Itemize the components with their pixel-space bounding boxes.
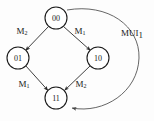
edge-00-to-01 [26,27,49,51]
edge-label-top-right-sub: 1 [83,30,86,36]
edge-label-outer-arc: MUI1 [121,28,143,40]
node-01-label: 01 [14,54,22,63]
edge-label-outer-arc-sub: 1 [139,30,144,40]
edge-label-bottom-right: M2 [75,79,86,89]
edge-label-top-left-base: M [16,26,24,36]
edge-label-outer-arc-base: MUI [121,28,139,38]
edge-label-top-right: M1 [74,26,85,36]
state-transition-diagram: 00 01 10 11 M2 M1 M1 M2 MUI1 [0,0,154,121]
edge-label-top-left-sub: 2 [25,30,28,36]
node-00-label: 00 [52,14,60,23]
node-11[interactable]: 11 [45,87,67,109]
edge-label-bottom-left-sub: 1 [27,83,30,89]
edge-label-bottom-right-sub: 2 [84,83,87,89]
node-11-label: 11 [52,94,60,103]
node-10[interactable]: 10 [87,47,109,69]
node-01[interactable]: 01 [7,47,29,69]
edge-label-bottom-right-base: M [75,79,83,89]
edge-label-top-right-base: M [74,26,82,36]
edge-label-bottom-left-base: M [18,79,26,89]
edge-label-bottom-left: M1 [18,79,29,89]
diagram-canvas: 00 01 10 11 M2 M1 M1 M2 MUI1 [0,0,154,121]
edge-label-top-left: M2 [16,26,27,36]
node-10-label: 10 [94,54,102,63]
node-00[interactable]: 00 [45,7,67,29]
